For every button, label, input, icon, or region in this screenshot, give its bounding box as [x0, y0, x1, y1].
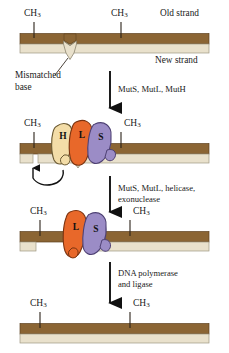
new-strand-label: New strand — [155, 55, 198, 66]
old-strand-label: Old strand — [160, 8, 199, 19]
protein-label-mutL-p3: L — [68, 222, 84, 232]
step-2-label-line2: exonuclease — [118, 194, 160, 204]
mismatched-base-label-line2: base — [15, 82, 32, 93]
protein-complex-panel-3 — [63, 211, 110, 258]
step-3-label-line1: DNA polymerase — [118, 268, 178, 278]
panel-4-duplex — [20, 312, 209, 343]
mismatched-base-label-line1: Mismatched — [15, 70, 61, 81]
methyl-label-p3-left: CH3 — [30, 206, 47, 218]
step-3-label-line2: and ligase — [118, 279, 153, 289]
protein-label-mutL: L — [74, 130, 90, 140]
methyl-label-p4-right: CH3 — [133, 298, 150, 310]
methyl-label-p1-right: CH3 — [111, 8, 128, 20]
step-1-label: MutS, MutL, MutH — [118, 84, 186, 94]
protein-label-mutS-p3: S — [88, 224, 104, 234]
panel-3-duplex — [20, 220, 209, 251]
methyl-label-p2-left: CH3 — [24, 118, 41, 130]
methyl-label-p2-right: CH3 — [124, 118, 141, 130]
figure-canvas: CH3 CH3 Old strand New strand Mismatched… — [0, 0, 229, 353]
methyl-label-p3-right: CH3 — [133, 206, 150, 218]
protein-label-mutH: H — [55, 131, 71, 141]
methyl-label-p4-left: CH3 — [30, 298, 47, 310]
protein-label-mutS: S — [93, 132, 109, 142]
protein-complex-panel-2 — [52, 120, 116, 165]
methyl-label-p1-left: CH3 — [24, 8, 41, 20]
step-2-label-line1: MutS, MutL, helicase, — [118, 183, 195, 193]
panel-1-duplex — [20, 22, 209, 75]
